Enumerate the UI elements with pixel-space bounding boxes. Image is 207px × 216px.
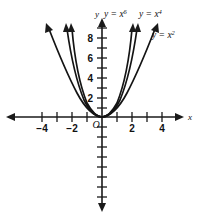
y-axis-label: y xyxy=(94,9,99,19)
coordinate-plane-svg: −4 −2 2 4 8 6 4 2 x y O y = x6 y = x4 xyxy=(0,0,207,216)
curve-label-x6-base: y = x xyxy=(103,9,124,19)
curve-arrow-x6-right xyxy=(129,23,136,32)
curve-label-x6: y = x6 xyxy=(103,8,128,20)
y-axis-bottom-arrow-icon xyxy=(98,203,106,212)
svg-text:y = x6: y = x6 xyxy=(103,8,128,20)
curve-label-x2-exponent: 2 xyxy=(172,29,176,36)
x-tick-label-neg4: −4 xyxy=(36,123,48,134)
x-axis-right-arrow-icon xyxy=(175,113,184,121)
curve-arrow-x2-left xyxy=(45,23,53,33)
y-tick-label-2: 2 xyxy=(87,93,93,104)
curve-arrow-x6-left xyxy=(68,23,75,32)
x-tick-label-2: 2 xyxy=(129,123,135,134)
y-axis-top-arrow-icon xyxy=(98,18,106,27)
curve-label-x6-exponent: 6 xyxy=(124,8,128,15)
y-tick-label-4: 4 xyxy=(87,73,93,84)
curve-label-x2: y = x2 xyxy=(151,29,176,41)
y-tick-label-6: 6 xyxy=(87,53,93,64)
curve-label-x4-base: y = x xyxy=(138,9,159,19)
x-tick-label-4: 4 xyxy=(159,123,165,134)
x-axis-label: x xyxy=(187,112,192,122)
y-tick-label-8: 8 xyxy=(87,33,93,44)
graph-figure: −4 −2 2 4 8 6 4 2 x y O y = x6 y = x4 xyxy=(0,0,207,216)
curve-label-x4: y = x4 xyxy=(138,8,163,20)
origin-label: O xyxy=(92,119,99,130)
y-axis-group xyxy=(98,18,106,212)
curve-label-x4-exponent: 4 xyxy=(159,8,163,15)
x-tick-label-neg2: −2 xyxy=(66,123,78,134)
curve-label-x2-base: y = x xyxy=(151,30,172,40)
svg-text:y = x4: y = x4 xyxy=(138,8,163,20)
svg-text:y = x2: y = x2 xyxy=(151,29,176,41)
x-axis-left-arrow-icon xyxy=(6,113,15,121)
